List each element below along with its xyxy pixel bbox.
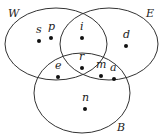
set-e-circle bbox=[60, 8, 158, 80]
element-a: a bbox=[110, 61, 117, 81]
element-label: s bbox=[36, 23, 42, 36]
element-label: n bbox=[82, 91, 89, 104]
element-dot bbox=[112, 77, 116, 81]
set-e-label: E bbox=[145, 7, 154, 20]
element-dot bbox=[80, 36, 84, 40]
element-label: p bbox=[48, 20, 55, 33]
element-label: d bbox=[123, 28, 130, 41]
set-w-label: W bbox=[8, 7, 21, 20]
element-dot bbox=[83, 107, 87, 111]
element-e: e bbox=[55, 59, 62, 79]
element-dot bbox=[99, 74, 103, 78]
element-i: i bbox=[80, 20, 84, 40]
element-m: m bbox=[96, 58, 106, 78]
element-label: e bbox=[55, 59, 62, 72]
venn-diagram: W E B s p i d r e m a n bbox=[0, 0, 161, 136]
element-p: p bbox=[48, 20, 55, 40]
element-dot bbox=[37, 39, 41, 43]
element-label: a bbox=[110, 61, 117, 74]
element-label: i bbox=[80, 20, 84, 33]
element-n: n bbox=[82, 91, 89, 111]
element-dot bbox=[49, 36, 53, 40]
element-label: m bbox=[96, 58, 106, 71]
element-dot bbox=[124, 44, 128, 48]
element-dot bbox=[56, 75, 60, 79]
element-d: d bbox=[123, 28, 130, 48]
set-b-label: B bbox=[116, 121, 125, 134]
element-label: r bbox=[79, 50, 85, 63]
element-r: r bbox=[79, 50, 85, 70]
element-s: s bbox=[36, 23, 42, 43]
element-dot bbox=[80, 66, 84, 70]
